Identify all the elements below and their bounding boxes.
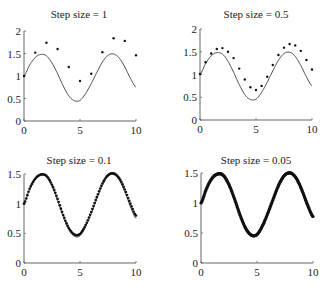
euler-point — [124, 188, 127, 191]
euler-point — [34, 51, 36, 53]
x-tick-label: 10 — [307, 123, 319, 135]
x-tick-label: 0 — [197, 123, 203, 135]
euler-point — [94, 199, 97, 202]
euler-point — [63, 217, 66, 220]
subplot-step-1: Step size = 1 00.511.520510 — [0, 0, 163, 144]
subplot-step-0.1: Step size = 0.1 00.511.50510 — [0, 144, 163, 288]
x-tick-label: 0 — [21, 124, 27, 136]
y-tick-label: 1.5 — [183, 46, 197, 58]
euler-point — [56, 48, 58, 50]
euler-point — [88, 216, 91, 219]
euler-point — [59, 204, 62, 207]
subplot-title: Step size = 1 — [51, 8, 108, 20]
euler-point — [57, 201, 60, 204]
euler-point — [93, 202, 96, 205]
euler-point — [300, 50, 302, 52]
euler-point — [91, 208, 94, 211]
euler-point — [272, 64, 274, 66]
euler-point — [210, 52, 212, 54]
euler-point — [277, 54, 279, 56]
euler-point — [64, 219, 67, 222]
euler-point — [244, 78, 246, 80]
euler-point — [45, 42, 47, 44]
euler-point — [100, 185, 103, 188]
exact-solution-curve — [24, 54, 136, 101]
euler-point — [89, 213, 92, 216]
euler-point — [129, 202, 132, 205]
euler-point — [120, 181, 123, 184]
euler-point — [112, 37, 114, 39]
y-tick-label: 1 — [192, 69, 198, 81]
y-tick-label: 1 — [193, 197, 199, 209]
euler-point — [249, 86, 251, 88]
subplot-step-0.5: Step size = 0.5 00.511.520510 — [163, 0, 326, 144]
x-tick-label: 5 — [253, 123, 259, 135]
x-tick-label: 10 — [308, 266, 320, 278]
euler-point — [92, 205, 95, 208]
x-tick-label: 10 — [131, 266, 143, 278]
y-tick-label: 1 — [16, 198, 22, 210]
y-tick-label: 2 — [192, 23, 198, 35]
euler-point — [294, 44, 296, 46]
euler-point — [50, 181, 53, 184]
euler-point — [305, 59, 307, 61]
euler-point — [85, 221, 88, 224]
euler-point — [96, 196, 99, 199]
y-tick-label: 1.5 — [7, 48, 21, 60]
exact-solution-curve — [201, 173, 313, 236]
euler-point — [199, 73, 201, 75]
euler-point — [283, 46, 285, 48]
y-tick-label: 1.5 — [184, 167, 198, 179]
euler-point — [131, 208, 134, 211]
euler-point — [127, 197, 130, 200]
subplot-title: Step size = 0.5 — [224, 8, 289, 20]
euler-point — [98, 190, 101, 193]
subplot-title: Step size = 0.1 — [47, 154, 112, 166]
euler-point — [121, 183, 124, 186]
euler-point — [27, 190, 30, 193]
euler-point — [62, 214, 65, 217]
x-tick-label: 0 — [198, 266, 204, 278]
euler-point — [232, 57, 234, 59]
euler-point — [288, 43, 290, 45]
y-tick-label: 0.5 — [7, 93, 21, 105]
euler-point — [255, 89, 257, 91]
euler-point — [24, 200, 27, 203]
euler-point — [84, 224, 87, 227]
subplot-title: Step size = 0.05 — [221, 154, 292, 166]
euler-point — [221, 47, 223, 49]
euler-point — [51, 183, 54, 186]
x-tick-label: 5 — [254, 266, 260, 278]
euler-point — [23, 75, 25, 77]
euler-point — [227, 51, 229, 53]
euler-point — [135, 214, 138, 217]
euler-point — [29, 185, 32, 188]
euler-point — [61, 211, 64, 214]
euler-point — [125, 191, 128, 194]
euler-point — [128, 200, 131, 203]
y-tick-label: 0.5 — [7, 227, 21, 239]
euler-point — [122, 186, 125, 189]
euler-point — [238, 67, 240, 69]
euler-point — [60, 207, 63, 210]
euler-point — [266, 76, 268, 78]
euler-point — [54, 192, 57, 195]
euler-point — [101, 51, 103, 53]
y-tick-label: 0.5 — [183, 91, 197, 103]
euler-point — [25, 197, 28, 200]
y-tick-label: 1 — [16, 70, 22, 82]
y-tick-label: 0.5 — [184, 227, 198, 239]
euler-point — [97, 193, 100, 196]
euler-point — [28, 188, 31, 191]
euler-point — [90, 211, 93, 214]
euler-point — [135, 54, 137, 56]
y-tick-label: 2 — [16, 25, 22, 37]
y-tick-label: 1.5 — [7, 168, 21, 180]
euler-point — [53, 189, 56, 192]
euler-point — [216, 48, 218, 50]
euler-point — [126, 194, 129, 197]
euler-point — [68, 66, 70, 68]
euler-point — [26, 194, 29, 197]
euler-point — [99, 187, 102, 190]
euler-point — [311, 215, 314, 218]
